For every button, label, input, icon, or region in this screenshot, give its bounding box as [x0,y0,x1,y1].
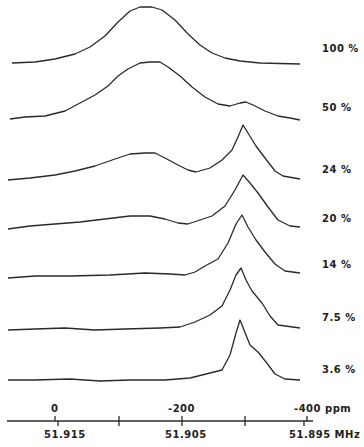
nmr-spectra-plot [0,0,364,447]
trace-label-20: 20 % [322,213,351,224]
trace-label-7-5: 7.5 % [322,312,356,323]
trace-label-14: 14 % [322,259,351,270]
trace-label-50: 50 % [322,102,351,113]
trace-100 [12,7,300,64]
trace-50 [10,62,300,120]
mhz-tick-51895: 51.895 MHz [289,429,360,440]
trace-20 [8,175,300,229]
mhz-tick-51915: 51.915 [44,429,86,440]
mhz-tick-51905: 51.905 [165,429,207,440]
ppm-tick-400: -400 ppm [294,403,351,414]
trace-3-6 [8,320,300,381]
trace-24 [8,125,300,180]
trace-7-5 [8,268,300,330]
trace-label-100: 100 % [322,43,359,54]
trace-label-24: 24 % [322,164,351,175]
trace-label-3-6: 3.6 % [322,364,356,375]
ppm-tick-0: 0 [51,403,58,414]
ppm-tick-200: -200 [168,403,195,414]
